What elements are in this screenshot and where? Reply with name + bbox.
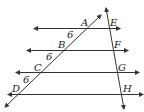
point-label-b: B: [57, 39, 65, 50]
segment-label-bc: 6: [46, 51, 53, 62]
point-label-a: A: [80, 17, 88, 28]
segment-label-ab: 6: [67, 29, 74, 40]
point-label-f: F: [113, 39, 122, 50]
parallel-lines-diagram: A E B F C G D H 6 6 6: [0, 0, 144, 112]
point-label-d: D: [11, 83, 20, 94]
segment-label-cd: 6: [23, 74, 30, 85]
point-label-h: H: [122, 83, 132, 94]
point-label-e: E: [109, 17, 118, 28]
point-label-c: C: [34, 62, 42, 73]
point-label-g: G: [118, 62, 126, 73]
